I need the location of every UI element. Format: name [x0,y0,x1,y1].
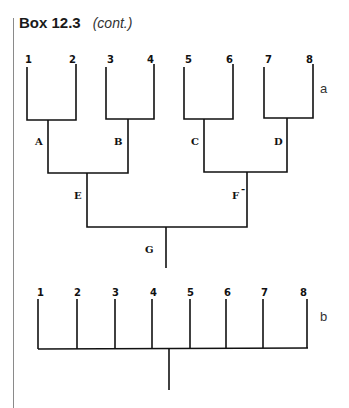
leaf-label-8: 8 [306,54,313,65]
leaf-label-1: 1 [25,54,32,65]
node-label-F-mark: - [241,183,245,194]
clade-E-F [87,172,247,227]
leaf-label-7: 7 [261,287,268,298]
node-label-B: B [114,136,122,147]
leaf-label-2: 2 [69,54,76,65]
leaf-label-6: 6 [226,54,233,65]
node-label-A: A [34,136,43,147]
leaf-label-6: 6 [224,287,231,298]
panel-label-b: b [320,309,327,324]
leaf-label-7: 7 [265,54,272,65]
clade-5-6 [184,64,233,119]
cladogram-figure: 1 2 3 4 5 6 7 8 A B C D E F - G a 1 2 3 … [0,0,349,408]
leaf-label-5: 5 [185,54,192,65]
clade-7-8 [264,64,313,118]
polytomy-bar [38,348,308,349]
leaf-label-3: 3 [107,54,114,65]
node-label-G: G [145,244,154,255]
clade-1-2 [27,64,76,120]
node-label-C: C [191,136,199,147]
clade-3-4 [106,64,154,119]
tree-b: 1 2 3 4 5 6 7 8 b [37,287,327,390]
leaf-label-5: 5 [187,287,194,298]
leaf-label-8: 8 [300,287,307,298]
node-label-F: F [232,190,239,201]
panel-label-a: a [320,81,328,96]
leaf-label-2: 2 [74,287,81,298]
tree-a: 1 2 3 4 5 6 7 8 A B C D E F - G a [25,54,328,268]
leaf-label-1: 1 [37,287,44,298]
leaf-label-3: 3 [112,287,119,298]
leaf-label-4: 4 [150,287,157,298]
leaf-label-4: 4 [147,54,154,65]
node-label-E: E [74,190,82,201]
node-label-D: D [274,136,283,147]
